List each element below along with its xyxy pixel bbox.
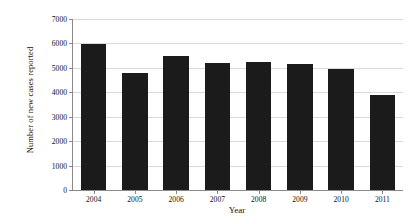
- y-axis-tick-label: 5000: [52, 63, 67, 72]
- bar-chart: Number of new cases reported 01000200030…: [0, 0, 418, 224]
- y-axis-tick-label: 4000: [52, 88, 67, 97]
- x-axis-tick-mark: [94, 190, 95, 194]
- gridline: [73, 43, 403, 44]
- bar: [163, 56, 189, 190]
- x-axis-tick-mark: [135, 190, 136, 194]
- x-axis-tick-mark: [382, 190, 383, 194]
- y-axis-tick-label: 3000: [52, 112, 67, 121]
- bar: [370, 95, 396, 190]
- y-axis-tick-label: 1000: [52, 161, 67, 170]
- y-axis-tick-label: 6000: [52, 39, 67, 48]
- x-axis-tick-mark: [217, 190, 218, 194]
- x-axis-tick-label: 2010: [334, 195, 349, 204]
- y-axis-tick-mark: [69, 92, 73, 93]
- x-axis-tick-mark: [259, 190, 260, 194]
- gridline: [73, 19, 403, 20]
- x-axis-tick-label: 2004: [86, 195, 101, 204]
- x-axis-title: Year: [72, 205, 402, 215]
- y-axis-tick-mark: [69, 68, 73, 69]
- y-axis-tick-label: 7000: [52, 15, 67, 24]
- x-axis-tick-label: 2006: [169, 195, 184, 204]
- y-axis-tick-label: 0: [63, 186, 67, 195]
- x-axis-tick-label: 2008: [251, 195, 266, 204]
- y-axis-tick-label: 2000: [52, 137, 67, 146]
- x-axis-tick-label: 2011: [375, 195, 390, 204]
- y-axis-tick-mark: [69, 43, 73, 44]
- y-axis-tick-mark: [69, 190, 73, 191]
- x-axis-tick-label: 2007: [210, 195, 225, 204]
- y-axis-tick-mark: [69, 117, 73, 118]
- y-axis-tick-mark: [69, 166, 73, 167]
- plot-area: 0100020003000400050006000700020042005200…: [72, 19, 403, 191]
- bar: [122, 73, 148, 190]
- bar: [287, 64, 313, 190]
- bar: [246, 62, 272, 190]
- x-axis-tick-mark: [176, 190, 177, 194]
- bar: [205, 63, 231, 190]
- x-axis-tick-label: 2005: [127, 195, 142, 204]
- x-axis-tick-label: 2009: [292, 195, 307, 204]
- x-axis-tick-mark: [341, 190, 342, 194]
- bar: [81, 44, 107, 190]
- y-axis-title: Number of new cases reported: [25, 15, 35, 185]
- y-axis-tick-mark: [69, 141, 73, 142]
- bar: [328, 69, 354, 190]
- x-axis-tick-mark: [300, 190, 301, 194]
- y-axis-tick-mark: [69, 19, 73, 20]
